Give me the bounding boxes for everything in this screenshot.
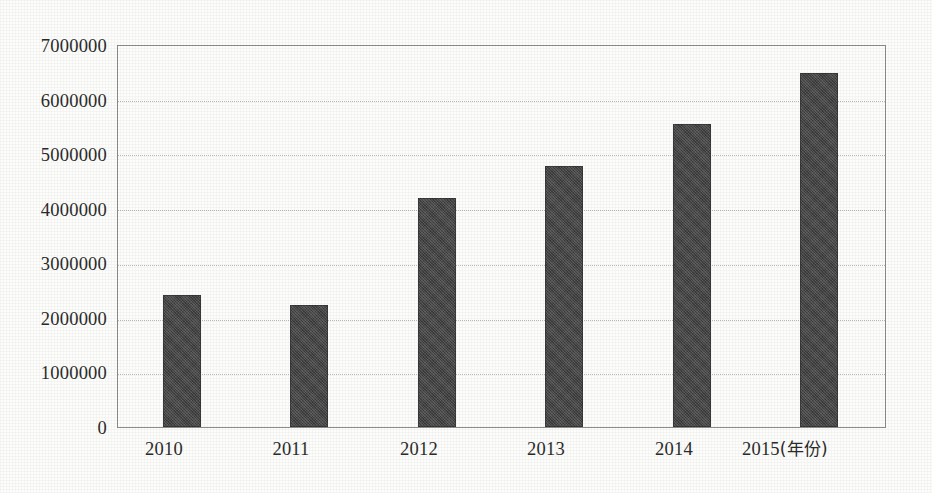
y-axis-tick-label: 0 xyxy=(3,419,107,438)
bar-chart-figure: 7000000 6000000 5000000 4000000 3000000 … xyxy=(0,0,932,493)
bar-2014 xyxy=(673,124,711,427)
x-axis-tick-label-2014: 2014 xyxy=(632,440,716,459)
bar-2013 xyxy=(545,166,583,427)
x-axis-tick-label-2011: 2011 xyxy=(249,440,333,459)
bar-2012 xyxy=(418,198,456,427)
gridline-6000000 xyxy=(118,101,885,102)
gridline-1000000 xyxy=(118,374,885,375)
x-axis-unit-label: (年份) xyxy=(780,439,828,459)
plot-area xyxy=(117,45,886,428)
x-axis-tick-label-2010: 2010 xyxy=(122,440,206,459)
y-axis-tick-label: 1000000 xyxy=(3,364,107,383)
y-axis-tick-label: 5000000 xyxy=(3,146,107,165)
x-axis-tick-label-2013: 2013 xyxy=(504,440,588,459)
gridline-3000000 xyxy=(118,265,885,266)
bar-2010 xyxy=(163,295,201,427)
gridline-2000000 xyxy=(118,320,885,321)
x-axis-tick-label-2012: 2012 xyxy=(377,440,461,459)
y-axis-tick-label: 7000000 xyxy=(3,37,107,56)
x-axis-tick-label-2015-year: 2015 xyxy=(742,439,780,459)
x-axis-tick-label-2015: 2015(年份) xyxy=(742,440,927,459)
y-axis-tick-label: 4000000 xyxy=(3,201,107,220)
gridline-5000000 xyxy=(118,155,885,156)
gridline-4000000 xyxy=(118,210,885,211)
bar-2011 xyxy=(290,305,328,427)
y-axis-tick-label: 3000000 xyxy=(3,255,107,274)
y-axis-tick-label: 6000000 xyxy=(3,92,107,111)
y-axis-tick-label: 2000000 xyxy=(3,310,107,329)
bar-2015 xyxy=(800,73,838,427)
